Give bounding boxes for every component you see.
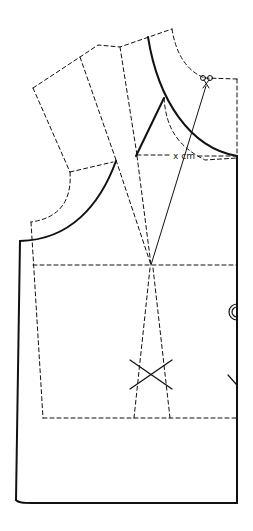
measurement-line <box>151 86 206 265</box>
notch-mark <box>228 375 236 384</box>
cross-mark-icon <box>130 360 172 389</box>
pattern-diagram: x cm <box>0 0 253 531</box>
button-icon <box>229 304 237 320</box>
construction-lines <box>33 155 237 418</box>
measurement-label: x cm <box>173 151 195 161</box>
final-cutting-line <box>16 37 237 503</box>
